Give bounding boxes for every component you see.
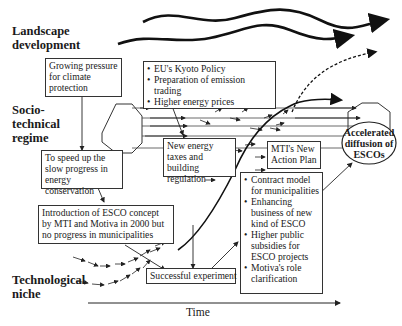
box-introduction: Introduction of ESCO concept by MTI and … [38, 205, 174, 244]
kyoto-item: Higher energy prices [147, 96, 272, 107]
box-contract: Contract model for municipalities Enhanc… [240, 172, 323, 294]
label-line: Landscape [12, 24, 80, 38]
level-label-regime: Socio- technical regime [12, 103, 60, 145]
label-line: niche [12, 287, 85, 301]
contract-item: Enhancing business of new kind of ESCO [244, 196, 319, 229]
box-growing-pressure: Growing pressure for climate protection [45, 58, 122, 97]
contract-item: Motiva's role clarification [244, 262, 319, 284]
box-kyoto: EU's Kyoto Policy Preparation of emissio… [143, 61, 276, 109]
label-line: technical [12, 117, 60, 131]
label-line: Technological [12, 273, 85, 287]
outcome-label: Accelerated diffusion of ESCOs [343, 127, 395, 160]
contract-item: Higher public subsidies for ESCO project… [244, 229, 319, 262]
label-line: regime [12, 131, 60, 145]
kyoto-item: Preparation of emission trading [147, 74, 272, 96]
label-line: Socio- [12, 103, 60, 117]
box-mti-plan: MTI's New Action Plan [267, 141, 321, 169]
kyoto-item: EU's Kyoto Policy [147, 63, 272, 74]
level-label-niche: Technological niche [12, 273, 85, 301]
level-label-landscape: Landscape development [12, 24, 80, 52]
label-line: development [12, 38, 80, 52]
box-speed-up: To speed up the slow progress in energy … [41, 150, 123, 189]
contract-item: Contract model for municipalities [244, 174, 319, 196]
landscape-wave-bottom [118, 25, 350, 44]
time-axis-label: Time [186, 306, 210, 318]
box-successful-experiment: Successful experiment [146, 268, 236, 284]
regime-octagon-left [102, 104, 142, 153]
box-new-taxes: New energy taxes and building regulation [163, 138, 236, 177]
